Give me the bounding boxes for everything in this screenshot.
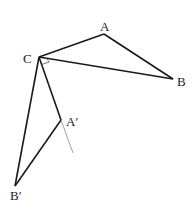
segment-cb-prime (15, 57, 39, 186)
label-a-prime: A′ (66, 114, 78, 129)
segment-ca-prime (39, 57, 61, 120)
segment-ab (104, 34, 173, 79)
label-a: A (100, 19, 110, 34)
rotation-diagram: A B C A′ B′ (0, 0, 196, 209)
segment-ca (39, 34, 104, 57)
label-c: C (23, 51, 32, 66)
label-b: B (177, 74, 186, 89)
segment-cb (39, 57, 173, 79)
right-angle-marker (42, 59, 50, 65)
label-b-prime: B′ (10, 188, 22, 203)
